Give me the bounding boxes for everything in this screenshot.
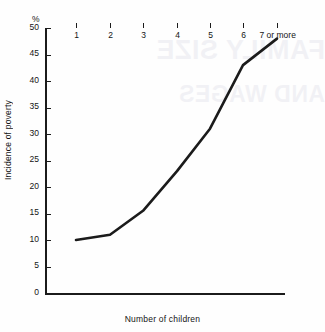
y-tick-label-0: 0	[34, 287, 39, 297]
y-tick-label-45: 45	[30, 48, 39, 58]
y-tick-label-35: 35	[30, 101, 39, 111]
y-tick-label-10: 10	[30, 234, 39, 244]
x-axis-title: Number of children	[0, 314, 325, 324]
y-tick-label-40: 40	[30, 75, 39, 85]
y-tick-label-5: 5	[34, 260, 39, 270]
y-tick-label-25: 25	[30, 154, 39, 164]
y-tick-label-30: 30	[30, 128, 39, 138]
chart-figure: FAMILY SIZE AND WAGES Incidence of pover…	[0, 0, 325, 332]
plot-area: % 0 5 10 15 20 25 30 35 40 45 50 1 2 3 4…	[45, 28, 283, 293]
poverty-incidence-line	[76, 39, 277, 240]
y-axis-title: Incidence of poverty	[3, 100, 17, 180]
y-tick-label-15: 15	[30, 207, 39, 217]
y-tick-label-50: 50	[30, 22, 39, 32]
y-tick-label-20: 20	[30, 181, 39, 191]
data-series-layer	[45, 28, 285, 294]
